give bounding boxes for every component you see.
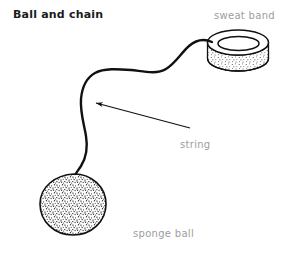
drawing-canvas — [0, 0, 287, 259]
sweat-band-drawing — [208, 30, 269, 71]
ball-and-chain-figure: Ball and chain — [0, 0, 287, 259]
sweat-band-inner-hole — [218, 37, 259, 51]
sponge-ball-body — [40, 174, 106, 235]
sweat-band-label: sweat band — [214, 10, 275, 21]
string-drawing — [74, 40, 212, 178]
sponge-ball-label: sponge ball — [133, 228, 194, 239]
sponge-ball-drawing — [40, 174, 106, 235]
string-label: string — [180, 139, 211, 150]
string-pointer-arrow — [96, 103, 190, 128]
